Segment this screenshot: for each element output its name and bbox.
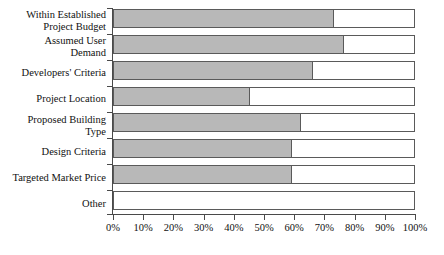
x-axis-tick <box>385 215 386 220</box>
category-label: Proposed Building Type <box>0 114 106 137</box>
bar-fill <box>114 88 250 105</box>
bar-fill <box>114 140 292 157</box>
category-label: Assumed User Demand <box>0 35 106 58</box>
bar-row <box>113 9 415 28</box>
category-label: Design Criteria <box>0 146 106 158</box>
category-label: Developers' Criteria <box>0 67 106 79</box>
x-axis-tick <box>234 215 235 220</box>
x-axis-tick <box>173 215 174 220</box>
bar-fill <box>114 10 334 27</box>
plot-area <box>113 0 415 215</box>
x-axis-tick <box>294 215 295 220</box>
category-label: Within Established Project Budget <box>0 9 106 32</box>
x-axis-tick <box>415 215 416 220</box>
category-label: Targeted Market Price <box>0 172 106 184</box>
x-axis-tick <box>143 215 144 220</box>
bar-fill <box>114 114 301 131</box>
x-axis-tick <box>264 215 265 220</box>
bar-row <box>113 61 415 80</box>
x-axis-tick <box>324 215 325 220</box>
bar-row <box>113 191 415 210</box>
bar-row <box>113 139 415 158</box>
bar-fill <box>114 62 313 79</box>
category-label-column: Within Established Project Budget Assume… <box>0 0 110 215</box>
bar-row <box>113 35 415 54</box>
x-axis-tick-label: 100% <box>395 222 435 234</box>
category-label: Other <box>0 198 106 210</box>
bar-fill <box>114 36 344 53</box>
bar-row <box>113 165 415 184</box>
x-axis-tick <box>113 215 114 220</box>
bar-row <box>113 113 415 132</box>
bar-fill <box>114 166 292 183</box>
bar-row <box>113 87 415 106</box>
x-axis-tick <box>204 215 205 220</box>
horizontal-bar-chart: Within Established Project Budget Assume… <box>0 0 444 255</box>
x-axis-tick <box>355 215 356 220</box>
category-label: Project Location <box>0 93 106 105</box>
